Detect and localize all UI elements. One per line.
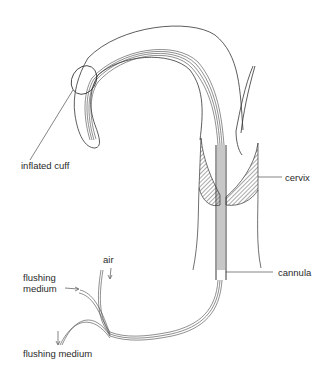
arrow-flushing-medium-top [65, 287, 79, 291]
catheter-diagram [0, 0, 335, 379]
label-cannula: cannula [278, 267, 311, 278]
label-flushing-medium-top-1: flushing [23, 272, 56, 283]
label-air: air [103, 254, 114, 265]
inflated-cuff [66, 61, 102, 99]
branch-tubes [60, 270, 110, 345]
cervix-left-lobe [199, 138, 220, 206]
arrow-air [108, 268, 112, 279]
arrow-flushing-medium-bottom [56, 331, 60, 345]
cannula [216, 145, 226, 280]
label-inflated-cuff: inflated cuff [21, 160, 69, 171]
vaginal-wall-right [258, 190, 261, 268]
leader-inflated-cuff [30, 90, 73, 160]
uterine-horn-outer-wall [88, 26, 243, 130]
vaginal-wall-left [193, 188, 199, 270]
label-flushing-medium-top-2: medium [23, 283, 57, 294]
cervix-right-lobe [226, 143, 258, 205]
external-tubing [110, 280, 222, 340]
label-cervix: cervix [285, 172, 310, 183]
uterine-horn-inner-wall [98, 57, 202, 140]
label-flushing-medium-bottom: flushing medium [23, 348, 92, 359]
